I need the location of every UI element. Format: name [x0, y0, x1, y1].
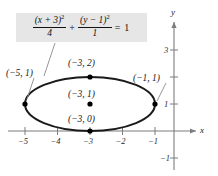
point-marker-right-vertex — [152, 101, 157, 106]
point-marker-left-vertex — [22, 101, 27, 106]
equation-term-2-exponent: 2 — [106, 13, 109, 20]
ellipse-graph-figure: (x + 3)2 4 + (y − 1)2 1 = 1 (−5, 1) (−3,… — [0, 0, 218, 176]
equation-term-1-numerator: (x + 3)2 — [33, 16, 67, 28]
point-label-bottom-covertex: (−3, 0) — [68, 115, 95, 125]
point-label-right-vertex: (−1, 1) — [133, 74, 160, 84]
left-vertex-leader-line — [27, 78, 34, 99]
y-axis-arrowhead — [171, 22, 176, 28]
x-tick-label--5: −5 — [18, 137, 28, 146]
equation-term-2-numerator-base: (y − 1) — [80, 15, 106, 25]
point-marker-bottom-covertex — [87, 128, 92, 133]
point-label-top-covertex: (−3, 2) — [68, 59, 95, 69]
x-tick-label--2: −2 — [116, 137, 126, 146]
x-tick-label--3: −3 — [83, 137, 93, 146]
x-tick-label--4: −4 — [51, 137, 61, 146]
equation-term-1-denominator: 4 — [47, 28, 52, 39]
equation-term-1-numerator-base: (x + 3) — [35, 15, 61, 25]
point-label-center: (−3, 1) — [68, 90, 95, 100]
equation-term-1-exponent: 2 — [61, 13, 64, 20]
ellipse-equation: (x + 3)2 4 + (y − 1)2 1 = 1 — [16, 13, 147, 42]
equation-plus-sign: + — [68, 22, 76, 33]
point-marker-center — [87, 101, 92, 106]
y-axis-label: y — [171, 8, 175, 17]
point-label-left-vertex: (−5, 1) — [6, 69, 33, 79]
x-tick-label--1: −1 — [148, 137, 158, 146]
equation-leader-line — [44, 43, 55, 76]
equation-term-1: (x + 3)2 4 — [33, 16, 67, 39]
y-tick-label-1: 1 — [164, 100, 168, 109]
x-axis-arrowhead — [190, 128, 196, 133]
equation-term-2-numerator: (y − 1)2 — [78, 16, 112, 28]
y-tick-label--1: −1 — [160, 154, 170, 163]
equation-term-2-denominator: 1 — [92, 28, 97, 39]
equation-equals-sign: = — [114, 22, 122, 33]
point-marker-top-covertex — [87, 74, 92, 79]
x-axis-label: x — [200, 126, 204, 135]
equation-term-2: (y − 1)2 1 — [78, 16, 112, 39]
y-tick-label-3: 3 — [164, 46, 168, 55]
equation-right-side: 1 — [123, 22, 130, 33]
